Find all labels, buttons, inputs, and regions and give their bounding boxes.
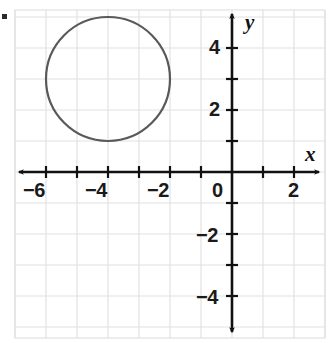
- graph-screenshot: −6 −4 −2 2 0 4 2 −2 −4 y x: [0, 0, 334, 343]
- y-axis-label: y: [245, 12, 254, 33]
- y-tick-label-2: 2: [209, 99, 220, 119]
- x-tick-label-2: 2: [288, 180, 299, 200]
- y-tick-label-neg4: −4: [196, 287, 218, 307]
- x-tick-label-neg6: −6: [23, 180, 45, 200]
- origin-label: 0: [212, 180, 223, 200]
- y-tick-label-4: 4: [209, 37, 220, 57]
- x-axis-label: x: [305, 144, 316, 165]
- x-tick-label-neg2: −2: [147, 180, 169, 200]
- y-tick-label-neg2: −2: [196, 225, 218, 245]
- coordinate-plane-svg: [0, 0, 334, 343]
- x-tick-label-neg4: −4: [85, 180, 107, 200]
